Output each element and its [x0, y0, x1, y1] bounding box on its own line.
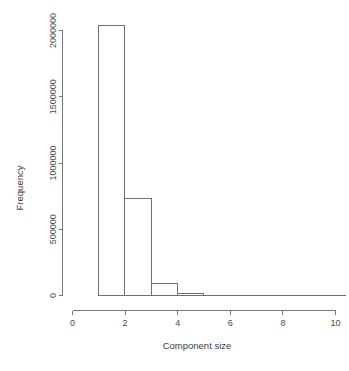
plot-surface: 2000000 1500000 1000000 500000 0 Frequen… [0, 0, 349, 371]
x-tick-label-6: 6 [228, 318, 233, 328]
y-tick-labels: 2000000 1500000 1000000 500000 0 [48, 13, 58, 298]
bar-bin-8-9 [283, 295, 309, 296]
x-tick-label-0: 0 [70, 318, 75, 328]
bar-bin-9-10 [309, 295, 335, 296]
y-axis [59, 31, 63, 296]
bars-group [99, 26, 346, 296]
y-axis-title: Frequency [14, 165, 25, 210]
bar-bin-1-2 [99, 26, 125, 296]
x-tick-labels: 0 2 4 6 8 10 [70, 318, 341, 328]
y-tick-label-1500000: 1500000 [48, 79, 58, 114]
x-tick-label-4: 4 [175, 318, 180, 328]
bar-bin-3-4 [151, 284, 177, 296]
x-tick-label-10: 10 [330, 318, 340, 328]
bar-bin-7-8 [256, 295, 282, 296]
x-tick-label-2: 2 [123, 318, 128, 328]
x-tick-label-8: 8 [280, 318, 285, 328]
bar-bin-6-7 [230, 295, 256, 296]
histogram-figure: 2000000 1500000 1000000 500000 0 Frequen… [0, 0, 349, 371]
chart-svg: 2000000 1500000 1000000 500000 0 Frequen… [0, 0, 349, 371]
bar-bin-4-5 [177, 294, 203, 296]
y-tick-label-500000: 500000 [48, 214, 58, 244]
y-tick-label-0: 0 [48, 293, 58, 298]
bar-bin-10-11 [335, 295, 345, 296]
x-axis [73, 311, 336, 315]
y-tick-label-2000000: 2000000 [48, 13, 58, 48]
bar-bin-2-3 [125, 199, 151, 296]
y-tick-label-1000000: 1000000 [48, 145, 58, 180]
x-axis-title: Component size [163, 340, 232, 351]
bar-bin-5-6 [204, 295, 230, 296]
